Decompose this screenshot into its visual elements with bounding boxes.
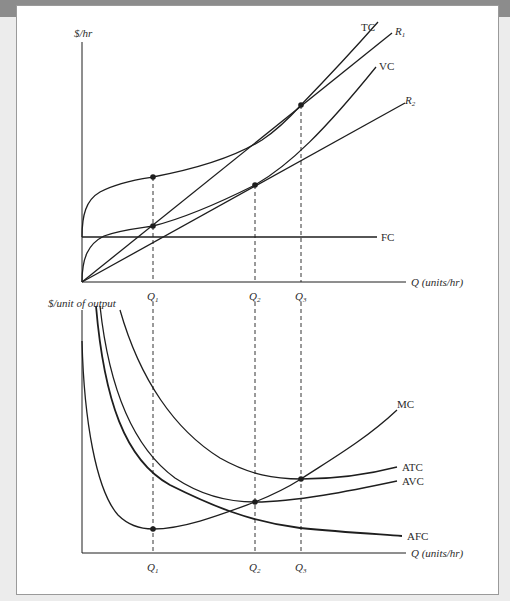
atc-min-point-q3 xyxy=(298,476,304,482)
mc-label: MC xyxy=(397,398,414,410)
tc-curve xyxy=(82,22,378,237)
avc-label: AVC xyxy=(402,475,424,487)
tc-point-q1 xyxy=(150,174,156,180)
lower-chart xyxy=(82,302,406,553)
cost-curves-figure: $/hr Q (units/hr) TC R1 VC R2 FC Q1 Q2 Q… xyxy=(0,0,510,601)
lower-y-axis-label: $/unit of output xyxy=(48,297,117,309)
upper-x-axis-label: Q (units/hr) xyxy=(411,276,464,289)
afc-label: AFC xyxy=(407,530,428,542)
tc-tangent-point-q3 xyxy=(298,102,304,108)
vc-tangent-point-q2 xyxy=(252,182,258,188)
r2-ray xyxy=(82,103,405,282)
vc-point-q1 xyxy=(150,223,156,229)
lower-tick-q2: Q2 xyxy=(249,561,261,575)
atc-label: ATC xyxy=(402,461,423,473)
r2-label: R2 xyxy=(404,94,416,108)
upper-tick-q2: Q2 xyxy=(249,290,261,304)
lower-x-axis-label: Q (units/hr) xyxy=(411,547,464,560)
avc-min-point-q2 xyxy=(252,499,258,505)
avc-curve xyxy=(100,306,397,502)
upper-tick-q1: Q1 xyxy=(147,290,158,304)
fc-label: FC xyxy=(381,231,394,243)
mc-min-point-q1 xyxy=(150,526,156,532)
r1-label: R1 xyxy=(394,25,405,39)
upper-y-axis-label: $/hr xyxy=(74,27,93,39)
atc-curve xyxy=(120,310,397,479)
upper-chart xyxy=(82,22,406,282)
upper-tick-q3: Q3 xyxy=(295,290,307,304)
lower-tick-q1: Q1 xyxy=(147,561,158,575)
lower-tick-q3: Q3 xyxy=(295,561,307,575)
vc-curve xyxy=(82,67,376,282)
tc-label: TC xyxy=(361,21,375,33)
vc-label: VC xyxy=(379,60,394,72)
r1-ray xyxy=(82,33,392,282)
